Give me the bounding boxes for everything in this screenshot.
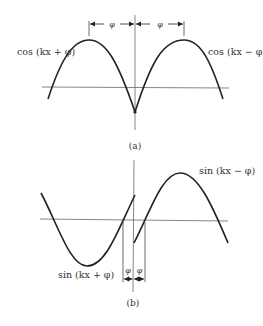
panel-a: φ φ cos (kx + φ) cos (kx − φ) (a) [17, 15, 263, 151]
panel-b: φ φ sin (kx − φ) sin (kx + φ) (b) [40, 160, 255, 308]
phase-label-b-right: φ [137, 266, 143, 275]
phase-shift-diagram: φ φ cos (kx + φ) cos (kx − φ) (a) φ φ si… [0, 0, 263, 326]
sin-minus-label: sin (kx − φ) [199, 165, 255, 176]
horizontal-axis-b [40, 219, 228, 221]
cos-plus-label: cos (kx + φ) [17, 46, 75, 57]
vertical-axis-b [133, 160, 134, 292]
sin-minus-curve [134, 173, 228, 243]
phase-label-a-right: φ [157, 20, 163, 29]
sin-plus-curve [41, 193, 135, 266]
phase-label-b-left: φ [125, 266, 131, 275]
sin-plus-label: sin (kx + φ) [58, 269, 114, 280]
caption-b: (b) [127, 298, 140, 308]
phase-label-a-left: φ [109, 20, 115, 29]
cos-minus-label: cos (kx − φ) [208, 46, 263, 57]
horizontal-axis-a [42, 87, 229, 88]
cusp-point [133, 110, 136, 113]
caption-a: (a) [129, 141, 141, 151]
